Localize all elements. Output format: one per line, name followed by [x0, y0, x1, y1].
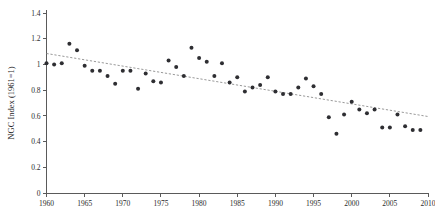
y-axis-title: NGC Index (1961=1): [6, 66, 16, 139]
data-point: [273, 89, 277, 93]
data-point: [106, 74, 110, 78]
scatter-plot: NGC Index (1961=1) 00.20.40.60.811.21.4 …: [0, 0, 435, 213]
x-tick-label: 1995: [306, 199, 321, 208]
data-point: [342, 113, 346, 117]
data-point: [67, 42, 71, 46]
data-point: [90, 69, 94, 73]
data-point: [266, 75, 270, 79]
data-point: [251, 86, 255, 90]
data-point: [319, 92, 323, 96]
data-point: [312, 84, 316, 88]
x-tick-label: 1985: [230, 199, 245, 208]
data-point: [388, 125, 392, 129]
data-point: [212, 74, 216, 78]
data-point: [258, 83, 262, 87]
y-axis-ticks: 00.20.40.60.811.21.4: [31, 9, 46, 198]
x-tick-label: 1990: [268, 199, 283, 208]
x-tick-label: 1970: [115, 199, 130, 208]
data-point: [350, 100, 354, 104]
y-tick-label: 0.4: [31, 137, 41, 146]
data-point: [235, 75, 239, 79]
data-point: [281, 92, 285, 96]
data-point: [159, 80, 163, 84]
data-point: [243, 89, 247, 93]
data-point: [380, 125, 384, 129]
data-point: [60, 61, 64, 65]
data-point: [83, 64, 87, 68]
x-tick-label: 1965: [77, 199, 92, 208]
data-point: [45, 61, 49, 65]
data-point: [327, 115, 331, 119]
data-point: [373, 107, 377, 111]
x-tick-label: 2005: [382, 199, 397, 208]
data-point: [75, 48, 79, 52]
y-axis-title-text: NGC Index (1961=1): [6, 66, 16, 139]
data-point: [296, 86, 300, 90]
y-tick-label: 1: [37, 60, 41, 69]
data-point: [205, 60, 209, 64]
data-point: [197, 56, 201, 60]
data-point: [228, 80, 232, 84]
chart-container: NGC Index (1961=1) 00.20.40.60.811.21.4 …: [0, 0, 435, 213]
x-tick-label: 2000: [344, 199, 359, 208]
trend-line: [47, 54, 429, 117]
data-point: [395, 113, 399, 117]
data-point: [220, 61, 224, 65]
y-tick-label: 0.2: [31, 163, 41, 172]
data-point: [113, 82, 117, 86]
data-point: [411, 128, 415, 132]
axes: [47, 10, 429, 193]
data-point: [167, 59, 171, 63]
data-point: [182, 74, 186, 78]
data-point: [304, 77, 308, 81]
data-point: [136, 87, 140, 91]
x-tick-label: 1975: [153, 199, 168, 208]
y-tick-label: 1.2: [31, 34, 41, 43]
y-tick-label: 0.8: [31, 86, 41, 95]
data-point: [403, 124, 407, 128]
x-tick-label: 2010: [421, 199, 435, 208]
y-tick-label: 0: [37, 189, 41, 198]
data-point: [128, 69, 132, 73]
data-point: [52, 62, 56, 66]
data-point: [418, 128, 422, 132]
data-point: [121, 69, 125, 73]
y-tick-label: 0.6: [31, 112, 41, 121]
data-point: [289, 92, 293, 96]
x-tick-label: 1980: [192, 199, 207, 208]
x-axis-ticks: 1960196519701975198019851990199520002005…: [39, 193, 435, 208]
y-tick-label: 1.4: [31, 9, 41, 18]
data-point: [144, 71, 148, 75]
data-point: [151, 79, 155, 83]
trend-line-group: [47, 54, 429, 117]
data-point: [98, 69, 102, 73]
data-point: [334, 132, 338, 136]
data-points-group: [45, 42, 423, 136]
data-point: [189, 46, 193, 50]
data-point: [174, 65, 178, 69]
data-point: [357, 107, 361, 111]
data-point: [365, 111, 369, 115]
x-tick-label: 1960: [39, 199, 54, 208]
